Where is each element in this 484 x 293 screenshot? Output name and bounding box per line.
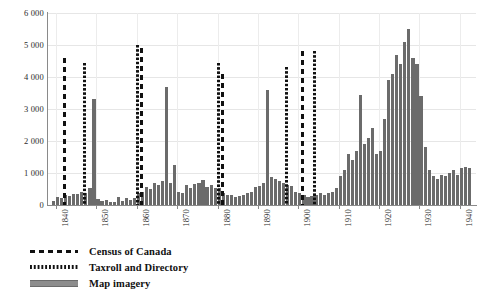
bar [363, 144, 366, 205]
x-axis-tick-label: 1940 [464, 209, 474, 227]
x-axis-tick [137, 205, 138, 209]
bar [153, 183, 156, 205]
marker-line-taxroll [313, 51, 316, 205]
x-axis-tick [298, 205, 299, 209]
bar [169, 183, 172, 205]
bar [161, 181, 164, 205]
x-axis-tick [258, 205, 259, 209]
x-axis-tick-label: 1890 [262, 209, 272, 227]
bar [56, 197, 59, 205]
bar [424, 147, 427, 205]
bar [274, 179, 277, 205]
bar [230, 195, 233, 205]
bar [173, 165, 176, 205]
bar [185, 185, 188, 205]
bar [113, 202, 116, 205]
x-axis-tick-label: 1860 [141, 209, 151, 227]
y-axis-tick-label: 2 000 [2, 137, 44, 145]
bar [193, 184, 196, 205]
legend-key-densely-dashed-line-icon [30, 265, 78, 269]
bar [177, 192, 180, 205]
legend-item-taxroll: Taxroll and Directory [30, 259, 280, 275]
x-axis-tick-label: 1900 [302, 209, 312, 227]
bar [234, 197, 237, 205]
bar [403, 42, 406, 205]
y-axis-tick-label: 3 000 [2, 105, 44, 113]
bar-series-map-imagery [48, 13, 476, 205]
bar [343, 170, 346, 205]
bar [189, 188, 192, 205]
x-axis-tick-label: 1920 [383, 209, 393, 227]
bar [383, 119, 386, 205]
chart-root: 01 0002 0003 0004 0005 0006 000 18401850… [0, 0, 484, 293]
bar [250, 192, 253, 205]
bar [319, 193, 322, 205]
bar [92, 99, 95, 205]
bar [460, 168, 463, 205]
bar [375, 154, 378, 205]
bar [258, 186, 261, 205]
marker-line-taxroll [217, 63, 220, 205]
bar [246, 193, 249, 205]
bar [294, 192, 297, 205]
bar [436, 179, 439, 205]
bar [254, 187, 257, 205]
bar [242, 195, 245, 205]
bar [323, 195, 326, 205]
bar [464, 167, 467, 205]
bar [100, 201, 103, 205]
bar [452, 170, 455, 205]
y-axis-tick-label: 0 [2, 201, 44, 209]
bar [411, 58, 414, 205]
bar [201, 180, 204, 205]
bar [270, 177, 273, 205]
marker-line-taxroll [83, 63, 86, 205]
y-axis-tick-label: 5 000 [2, 41, 44, 49]
x-axis-tick [379, 205, 380, 209]
bar [226, 195, 229, 205]
bar [395, 55, 398, 205]
bar [165, 87, 168, 205]
x-axis-tick [218, 205, 219, 209]
bar [149, 189, 152, 205]
bar [415, 64, 418, 205]
bar [238, 196, 241, 205]
bar [327, 193, 330, 205]
bar [181, 193, 184, 205]
bar [197, 183, 200, 205]
marker-line-taxroll [136, 45, 139, 205]
bar [105, 200, 108, 205]
chart-legend: Census of Canada Taxroll and Directory M… [30, 243, 280, 291]
bar [407, 29, 410, 205]
legend-label-taxroll: Taxroll and Directory [89, 262, 188, 273]
bar [72, 194, 75, 205]
bar [456, 175, 459, 205]
bar [468, 168, 471, 205]
x-axis-tick [177, 205, 178, 209]
bar [290, 186, 293, 205]
bar [359, 95, 362, 205]
x-axis-tick [460, 205, 461, 209]
bar [121, 201, 124, 205]
legend-label-census: Census of Canada [89, 246, 172, 257]
bar [331, 192, 334, 205]
legend-key-solid-bar-icon [30, 280, 78, 287]
bar [432, 176, 435, 205]
bar [379, 151, 382, 205]
bar [157, 185, 160, 205]
bar [371, 128, 374, 205]
bar [444, 176, 447, 205]
y-axis-tick-label: 6 000 [2, 9, 44, 17]
bar [391, 74, 394, 205]
bar [76, 194, 79, 205]
bar [117, 197, 120, 205]
marker-line-census [63, 58, 66, 205]
plot-area [48, 13, 476, 205]
bar [347, 154, 350, 205]
bar [440, 175, 443, 205]
marker-line-census [301, 51, 304, 205]
bar [109, 202, 112, 205]
bar [205, 187, 208, 205]
bar [262, 183, 265, 205]
bar [419, 96, 422, 205]
